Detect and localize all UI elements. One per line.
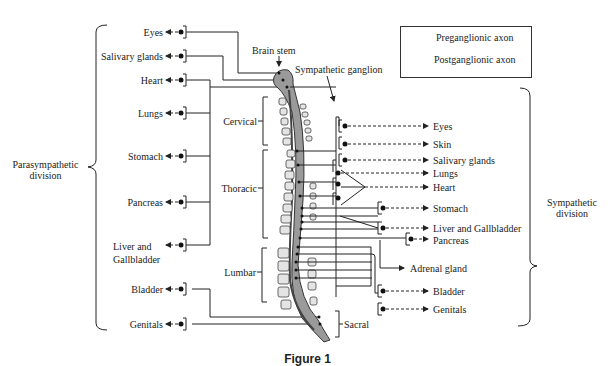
symp-target-eyes: Eyes [433,121,452,132]
para-target-salivary: Salivary glands [60,51,163,62]
para-target-bladder: Bladder [80,284,163,295]
vagus-trunk [186,80,210,245]
symp-target-bladder: Bladder [433,286,465,297]
symp-target-adrenal: Adrenal gland [410,263,467,274]
para-target-stomach: Stomach [80,151,163,162]
region-cervical: Cervical [200,116,257,127]
figure-caption: Figure 1 [0,352,615,366]
para-target-heart: Heart [80,75,163,86]
region-thoracic: Thoracic [200,183,257,194]
symp-target-liver-gallbladder: Liver and Gallbladder [433,223,521,234]
sympathetic-division-label: Sympathetic division [537,197,607,219]
symp-target-heart: Heart [433,182,455,193]
sympathetic-brace [518,88,537,326]
para-target-liver: Liver and Gallbladder [113,241,160,265]
region-sacral: Sacral [344,319,369,330]
para-target-eyes: Eyes [80,27,163,38]
para-target-genitals: Genitals [80,319,163,330]
parasympathetic-postganglionic [166,32,178,324]
parasympathetic-division-label: Parasympathetic division [3,159,88,181]
para-target-pancreas: Pancreas [80,197,163,208]
legend-postganglionic: Postganglionic axon [434,54,515,65]
region-lumbar: Lumbar [200,267,256,278]
sympathetic-postganglionic [341,126,428,309]
sympathetic-ganglion-label: Sympathetic ganglion [295,64,383,75]
symp-target-stomach: Stomach [433,203,468,214]
symp-target-pancreas: Pancreas [433,235,469,246]
symp-target-genitals: Genitals [433,304,466,315]
symp-target-salivary: Salivary glands [433,155,495,166]
symp-target-skin: Skin [433,139,451,150]
legend-preganglionic: Preganglionic axon [436,32,513,43]
symp-target-lungs: Lungs [433,168,458,179]
para-target-lungs: Lungs [80,108,163,119]
parasympathetic-ganglion-brackets [183,26,186,330]
brain-stem-label: Brain stem [252,45,296,56]
